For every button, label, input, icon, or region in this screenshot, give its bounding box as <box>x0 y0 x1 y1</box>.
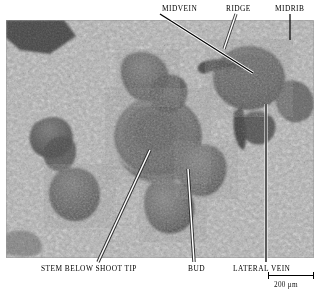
label-midvein: MIDVEIN <box>162 4 197 13</box>
scale-bar-label: 200 μm <box>274 281 298 289</box>
scale-bar-tick-right <box>313 272 314 279</box>
label-lateral-vein: LATERAL VEIN <box>233 264 290 273</box>
scale-bar-line <box>268 275 314 276</box>
micrograph-canvas <box>6 20 314 258</box>
label-midrib: MIDRIB <box>275 4 304 13</box>
label-bud: BUD <box>188 264 205 273</box>
micrograph-image <box>6 20 314 258</box>
figure-micrograph-shoot-apex: MIDVEIN RIDGE MIDRIB STEM BELOW SHOOT TI… <box>0 0 321 293</box>
scale-bar: 200 μm <box>268 274 316 291</box>
label-ridge: RIDGE <box>226 4 251 13</box>
scale-bar-tick-left <box>268 272 269 279</box>
label-stem-below-shoot-tip: STEM BELOW SHOOT TIP <box>41 264 137 273</box>
